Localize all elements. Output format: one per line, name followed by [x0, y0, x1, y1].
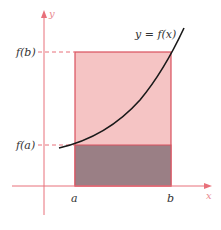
- lower-rectangle: [75, 145, 171, 186]
- curve-label: y = f(x): [134, 28, 176, 41]
- a-label: a: [71, 192, 78, 205]
- b-label: b: [167, 192, 174, 205]
- fb-label: f(b): [15, 46, 36, 59]
- y-axis-arrow-icon: [41, 10, 47, 18]
- x-axis-label: x: [206, 190, 212, 201]
- integral-bounds-diagram: y x y = f(x) f(b) f(a) a b: [0, 0, 221, 230]
- y-axis-label: y: [48, 8, 55, 19]
- x-axis-arrow-icon: [204, 183, 212, 189]
- fa-label: f(a): [15, 139, 35, 152]
